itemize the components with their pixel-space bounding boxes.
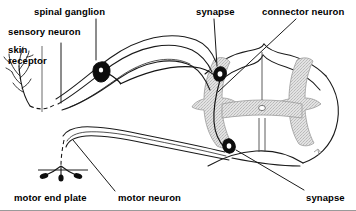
label-motor-end-plate: motor end plate <box>14 192 87 203</box>
ventral-median-fissure <box>259 118 265 152</box>
label-motor-neuron: motor neuron <box>118 192 181 203</box>
leader-line-synapse-bottom <box>236 150 304 190</box>
label-sensory-neuron: sensory neuron <box>8 26 81 37</box>
central-canal <box>259 105 266 110</box>
leader-line-motor-neuron <box>73 140 115 191</box>
label-connector-neuron: connector neuron <box>262 6 344 17</box>
leader-line-connector-neuron <box>218 19 296 92</box>
spinal-ganglion-cell-body <box>93 62 121 84</box>
label-spinal-ganglion: spinal ganglion <box>34 6 105 17</box>
motor-end-plate-terminal <box>38 166 88 182</box>
label-synapse-top: synapse <box>196 6 235 17</box>
motor-axon-to-end-plate <box>61 140 64 166</box>
label-skin-receptor: skin receptor <box>8 44 47 66</box>
ventral-root-nerve-bundle <box>63 127 300 166</box>
label-synapse-bottom: synapse <box>306 192 345 203</box>
reflex-arc-diagram: spinal ganglion sensory neuron skin rece… <box>0 0 356 211</box>
dorsal-root-nerve-bundle <box>56 36 216 110</box>
